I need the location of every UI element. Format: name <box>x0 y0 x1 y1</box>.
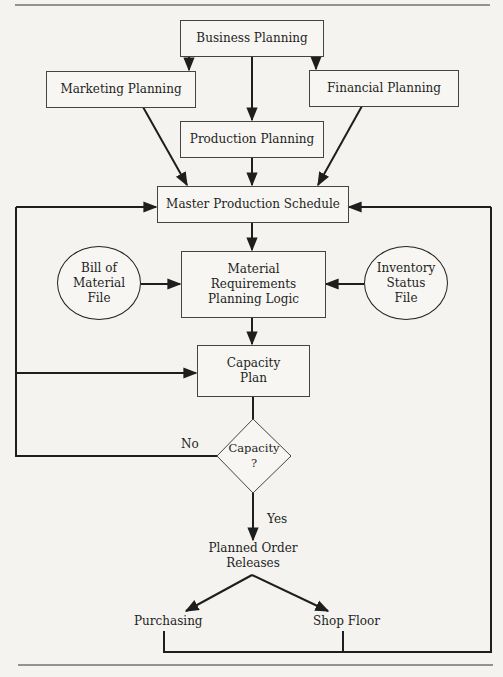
shop-floor-label: Shop Floor <box>313 614 380 629</box>
mrp-logic-label: Material Requirements Planning Logic <box>208 262 299 307</box>
edge-releases-purchasing <box>186 575 252 611</box>
marketing-planning-label: Marketing Planning <box>60 82 181 97</box>
production-planning-label: Production Planning <box>190 132 314 147</box>
marketing-planning-box: Marketing Planning <box>46 71 196 108</box>
financial-planning-label: Financial Planning <box>327 81 441 96</box>
master-production-schedule-box: Master Production Schedule <box>157 186 349 223</box>
edge-releases-shopfloor <box>252 575 328 611</box>
business-planning-box: Business Planning <box>180 20 324 57</box>
edge-financial-mps <box>318 106 362 185</box>
production-planning-box: Production Planning <box>180 121 324 158</box>
planned-order-releases-label: Planned Order Releases <box>203 541 303 571</box>
bill-of-material-file-ellipse: Bill of Material File <box>57 246 141 320</box>
business-planning-label: Business Planning <box>196 31 307 46</box>
financial-planning-box: Financial Planning <box>309 70 459 107</box>
capacity-plan-box: Capacity Plan <box>197 345 310 397</box>
yes-label: Yes <box>267 512 287 527</box>
no-label: No <box>181 437 199 452</box>
master-production-schedule-label: Master Production Schedule <box>166 197 340 212</box>
edge-no-loop <box>16 207 217 456</box>
capacity-plan-label: Capacity Plan <box>227 356 280 386</box>
mrp-logic-box: Material Requirements Planning Logic <box>181 251 326 318</box>
inventory-status-file-label: Inventory Status File <box>377 261 436 306</box>
purchasing-label: Purchasing <box>134 614 203 629</box>
bill-of-material-file-label: Bill of Material File <box>73 261 125 306</box>
inventory-status-file-ellipse: Inventory Status File <box>364 246 448 320</box>
capacity-decision-label: Capacity ? <box>218 441 290 471</box>
